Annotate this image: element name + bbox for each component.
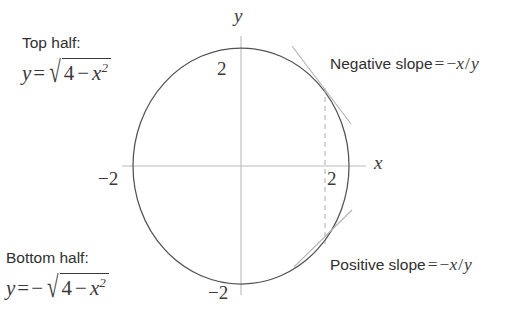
figure-canvas: y x 2 −2 −2 2 Top half: y=√4−x2 Bottom h… [0, 0, 531, 319]
positive-slope-denominator: y [464, 254, 472, 274]
x-axis-label: x [374, 152, 382, 174]
negative-slope-slash: / [464, 53, 471, 73]
negative-slope-annotation: Negative slope=−x/y [330, 53, 479, 74]
sqrt-icon: √ [47, 270, 59, 306]
top-half-radicand: 4−x2 [62, 58, 111, 86]
bottom-half-equation: y=−√4−x2 [6, 273, 109, 301]
top-half-minus: − [74, 61, 92, 85]
positive-slope-numerator: x [449, 254, 457, 274]
positive-slope-equals: = [426, 254, 440, 274]
negative-slope-caption: Negative slope [330, 55, 433, 72]
bottom-half-lhs: y [6, 276, 15, 300]
positive-slope-caption: Positive slope [330, 256, 426, 273]
tick-label-x-positive-2: 2 [327, 168, 337, 190]
tick-label-y-negative-2: −2 [208, 282, 228, 304]
bottom-half-equals: = [15, 276, 31, 300]
tick-label-y-positive-2: 2 [217, 58, 227, 80]
top-half-equation: y=√4−x2 [22, 58, 111, 86]
top-half-lhs: y [22, 61, 31, 85]
negative-slope-sign: − [446, 53, 456, 73]
negative-slope-equals: = [433, 53, 447, 73]
top-half-radicand-b: x [92, 61, 101, 85]
top-half-equals: = [31, 61, 47, 85]
positive-slope-sign: − [440, 254, 450, 274]
bottom-half-annotation: Bottom half: y=−√4−x2 [6, 249, 109, 301]
bottom-half-radicand: 4−x2 [60, 273, 109, 301]
positive-slope-annotation: Positive slope=−x/y [330, 254, 472, 275]
top-half-caption: Top half: [22, 34, 111, 52]
top-half-exponent: 2 [101, 60, 108, 75]
top-half-radical: √4−x2 [47, 58, 111, 86]
bottom-half-radical: √4−x2 [45, 273, 109, 301]
bottom-half-caption: Bottom half: [6, 249, 109, 267]
negative-slope-numerator: x [456, 53, 464, 73]
y-axis-label: y [234, 5, 242, 27]
negative-slope-denominator: y [471, 53, 479, 73]
tick-label-x-negative-2: −2 [98, 168, 118, 190]
sqrt-icon: √ [49, 55, 61, 91]
bottom-half-sign: − [31, 276, 45, 300]
top-half-radicand-a: 4 [64, 61, 75, 85]
top-half-annotation: Top half: y=√4−x2 [22, 34, 111, 86]
bottom-half-exponent: 2 [99, 275, 106, 290]
bottom-half-minus: − [72, 276, 90, 300]
bottom-half-radicand-a: 4 [62, 276, 73, 300]
bottom-half-radicand-b: x [90, 276, 99, 300]
